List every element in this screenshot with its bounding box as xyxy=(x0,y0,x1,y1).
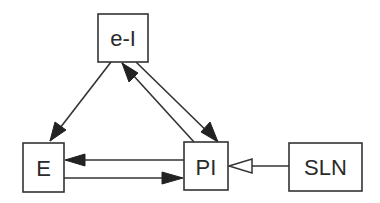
arrowhead-icon xyxy=(201,122,218,142)
node-label-pi: PI xyxy=(196,155,217,180)
arrowhead-icon xyxy=(50,122,66,141)
hollow-arrowhead-icon xyxy=(229,159,252,173)
node-label-ei: e-I xyxy=(110,26,136,51)
arrowhead-icon xyxy=(122,63,138,82)
arrowhead-icon xyxy=(65,154,85,166)
node-label-e: E xyxy=(36,156,51,181)
diagram-canvas: e-I E PI SLN xyxy=(0,0,380,203)
arrowhead-icon xyxy=(162,172,183,184)
node-label-sln: SLN xyxy=(304,155,347,180)
